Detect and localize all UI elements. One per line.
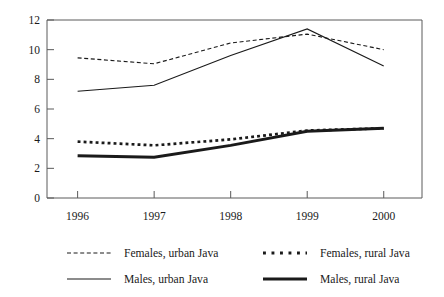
- y-axis-tick-label: 12: [29, 14, 41, 26]
- x-axis-tick-label: 1996: [66, 210, 89, 222]
- legend-item-females-rural-java: Females, rural Java: [262, 247, 438, 260]
- legend-item-females-urban-java: Females, urban Java: [66, 247, 262, 260]
- legend-swatch-thin-solid: [66, 273, 112, 285]
- legend-label-males-rural-java: Males, rural Java: [320, 273, 400, 286]
- x-axis-tick-label: 1997: [143, 210, 166, 222]
- x-axis-ticks: [78, 191, 384, 198]
- legend-row: Females, urban Java Females, rural Java: [66, 240, 438, 266]
- legend-item-males-rural-java: Males, rural Java: [262, 273, 438, 286]
- series-line-males-rural-java: [78, 128, 384, 157]
- axis-frame: [47, 20, 422, 198]
- series-line-females-urban-java: [78, 34, 384, 64]
- legend-row: Males, urban Java Males, rural Java: [66, 266, 438, 292]
- x-axis-tick-label: 1998: [219, 210, 242, 222]
- legend-label-males-urban-java: Males, urban Java: [124, 273, 208, 286]
- legend-swatch-fine-dashed: [66, 247, 112, 259]
- legend-item-males-urban-java: Males, urban Java: [66, 273, 262, 286]
- x-axis-tick-label: 1999: [296, 210, 319, 222]
- y-axis-tick-label: 0: [34, 192, 40, 204]
- data-series-group: [78, 29, 384, 157]
- y-axis-tick-label: 2: [34, 162, 40, 174]
- chart-legend: Females, urban Java Females, rural Java …: [66, 240, 438, 292]
- line-chart-figure: 024681012 19961997199819992000 Females, …: [0, 0, 444, 297]
- legend-swatch-thick-solid: [262, 273, 308, 285]
- x-axis-tick-labels: 19961997199819992000: [66, 210, 395, 222]
- legend-swatch-thick-dotted: [262, 247, 308, 259]
- x-axis-tick-label: 2000: [372, 210, 395, 222]
- y-axis-tick-label: 10: [29, 44, 41, 56]
- legend-label-females-rural-java: Females, rural Java: [320, 247, 410, 260]
- y-axis-tick-label: 6: [34, 103, 40, 115]
- y-axis-tick-label: 4: [34, 133, 40, 145]
- y-axis-ticks: [47, 20, 54, 198]
- series-line-males-urban-java: [78, 29, 384, 91]
- y-axis-tick-label: 8: [34, 73, 40, 85]
- legend-label-females-urban-java: Females, urban Java: [124, 247, 218, 260]
- y-axis-tick-labels: 024681012: [29, 14, 41, 204]
